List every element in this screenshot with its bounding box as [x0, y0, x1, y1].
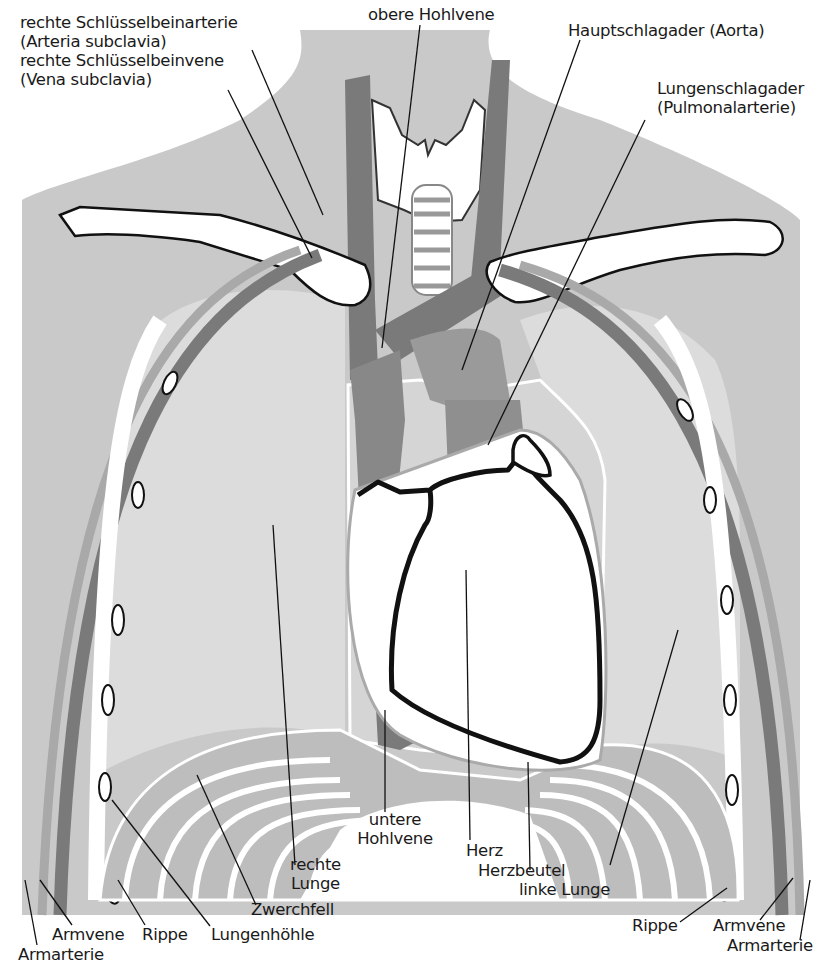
label-rib-left: Rippe [142, 925, 188, 944]
label-right-lung: rechte Lunge [288, 855, 343, 893]
label-arm-artery-left: Armarterie [18, 945, 104, 964]
label-rib-right: Rippe [632, 916, 678, 935]
label-superior-vena-cava: obere Hohlvene [368, 5, 494, 24]
label-subclavian-vein: rechte Schlüsselbeinvene (Vena subclavia… [20, 51, 224, 89]
label-heart: Herz [466, 841, 503, 860]
label-pleural-cavity: Lungenhöhle [211, 925, 314, 944]
label-pulmonary-artery: Lungenschlagader (Pulmonalarterie) [657, 79, 804, 117]
label-arm-artery-right: Armarterie [727, 936, 813, 955]
label-inferior-vena-cava: untere Hohlvene [355, 810, 435, 848]
label-arm-vein-left: Armvene [52, 925, 124, 944]
label-pericardium: Herzbeutel [478, 861, 565, 880]
label-left-lung: linke Lunge [519, 880, 610, 899]
label-aorta: Hauptschlagader (Aorta) [568, 21, 764, 40]
label-diaphragm: Zwerchfell [251, 900, 334, 919]
label-subclavian-artery: rechte Schlüsselbeinarterie (Arteria sub… [20, 13, 238, 51]
label-arm-vein-right: Armvene [713, 916, 785, 935]
